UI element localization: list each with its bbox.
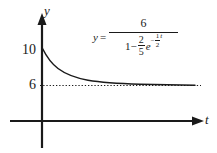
equation-denominator-minus: − bbox=[131, 40, 137, 52]
equation-exponent: − 1 2 t bbox=[151, 32, 162, 49]
t-axis-arrowhead bbox=[192, 117, 204, 126]
equation-coefficient-denominator: 5 bbox=[138, 46, 145, 57]
equation-numerator: 6 bbox=[138, 16, 150, 32]
equation-annotation: y = 6 1 − 2 5 e − 1 2 bbox=[93, 16, 178, 57]
equation-lhs: y bbox=[93, 31, 98, 43]
equation-denominator: 1 − 2 5 e − 1 2 t bbox=[122, 33, 165, 57]
y-tick-label-10: 10 bbox=[8, 43, 36, 57]
y-tick-label-6: 6 bbox=[8, 78, 36, 92]
t-axis-label: t bbox=[205, 113, 209, 126]
equation-main-fraction: 6 1 − 2 5 e − 1 2 t bbox=[109, 16, 178, 57]
equation-exponent-denominator: 2 bbox=[155, 41, 161, 49]
equation-exponent-variable: t bbox=[160, 32, 162, 40]
equation-coefficient-fraction: 2 5 bbox=[138, 34, 145, 57]
function-graph-figure: y t 10 6 y = 6 1 − 2 5 e − 1 bbox=[0, 0, 217, 153]
equation-equals-sign: = bbox=[100, 31, 106, 43]
y-axis-label: y bbox=[44, 4, 50, 17]
equation-coefficient-numerator: 2 bbox=[138, 34, 145, 45]
